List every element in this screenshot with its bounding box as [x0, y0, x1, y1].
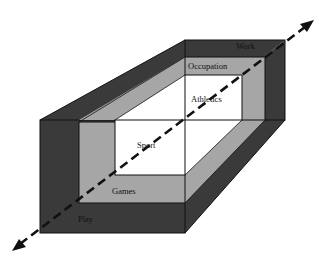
label-occupation: Occupation: [188, 61, 228, 71]
label-athletics: Athletics: [191, 94, 222, 104]
label-games: Games: [112, 186, 136, 196]
label-sport: Sport: [137, 140, 156, 150]
diagram-canvas: Work Occupation Athletics Sport Games Pl…: [0, 0, 332, 269]
label-play: Play: [78, 214, 94, 224]
label-work: Work: [236, 41, 255, 51]
